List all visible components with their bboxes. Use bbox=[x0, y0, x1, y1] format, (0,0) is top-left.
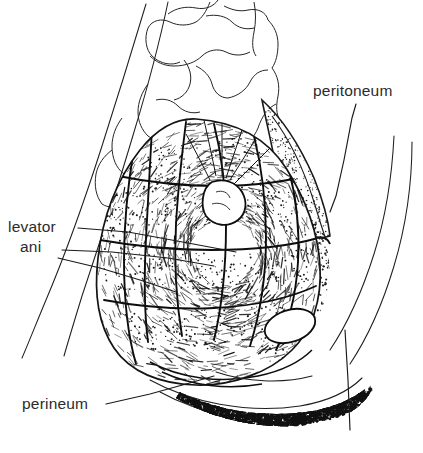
anatomical-figure: peritoneum levator ani perineum bbox=[0, 0, 423, 453]
label-perineum: perineum bbox=[22, 395, 88, 412]
perineal-body bbox=[203, 180, 246, 224]
label-ani: ani bbox=[20, 238, 41, 255]
label-levator: levator bbox=[8, 218, 56, 235]
pelvis-illustration: peritoneum levator ani perineum bbox=[0, 0, 423, 453]
label-peritoneum: peritoneum bbox=[313, 82, 393, 99]
